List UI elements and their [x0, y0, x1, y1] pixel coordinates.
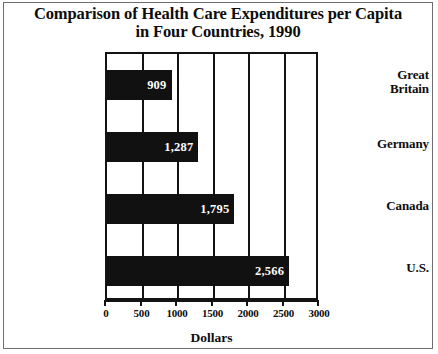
x-tick-label-500: 500 [122, 307, 162, 319]
x-tick-2500 [282, 300, 284, 306]
bar-value-label: 1,795 [200, 202, 229, 217]
x-tick-0 [104, 300, 106, 306]
x-tick-1000 [175, 300, 177, 306]
chart-title-line-2: in Four Countries, 1990 [12, 23, 424, 41]
bar-u-s: 2,566 [107, 256, 289, 286]
x-axis-title: Dollars [105, 330, 318, 346]
x-tick-label-2500: 2500 [264, 307, 304, 319]
bar-value-label: 2,566 [255, 264, 284, 279]
bar-value-label: 909 [147, 78, 166, 93]
category-label-u-s: U.S. [343, 261, 438, 276]
x-tick-label-2000: 2000 [228, 307, 268, 319]
plot-area: 9091,2871,7952,566 [105, 52, 318, 300]
category-label-line: Germany [343, 137, 429, 152]
bar-value-label: 1,287 [164, 140, 193, 155]
category-label-line: Britain [343, 82, 429, 97]
x-tick-label-1000: 1000 [157, 307, 197, 319]
bar-great-britain: 909 [107, 70, 172, 100]
x-tick-500 [140, 300, 142, 306]
chart-title: Comparison of Health Care Expenditures p… [12, 5, 424, 41]
x-tick-label-3000: 3000 [299, 307, 339, 319]
x-tick-2000 [246, 300, 248, 306]
category-label-line: Great [343, 68, 429, 83]
x-tick-label-0: 0 [86, 307, 126, 319]
bar-canada: 1,795 [107, 194, 234, 224]
bar-germany: 1,287 [107, 132, 198, 162]
x-tick-1500 [211, 300, 213, 306]
chart-title-line-1: Comparison of Health Care Expenditures p… [12, 5, 424, 23]
chart-figure: Comparison of Health Care Expenditures p… [0, 0, 438, 354]
category-label-canada: Canada [343, 199, 438, 214]
category-label-line: Canada [343, 199, 429, 214]
x-tick-label-1500: 1500 [193, 307, 233, 319]
category-label-great-britain: GreatBritain [343, 68, 438, 97]
category-label-line: U.S. [343, 261, 429, 276]
x-tick-3000 [317, 300, 319, 306]
category-label-germany: Germany [343, 137, 438, 152]
